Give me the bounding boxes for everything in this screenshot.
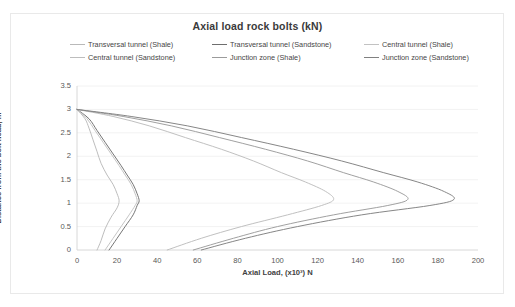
y-axis-tick-label: 3 (45, 104, 71, 113)
y-axis-title: Distance from the bolt head, m (0, 0, 6, 86)
legend-item-label: Junction zone (Sandstone) (382, 51, 469, 64)
x-axis-tick-label: 120 (303, 256, 333, 265)
legend-item[interactable]: Central tunnel (Sandstone) (70, 51, 212, 64)
chart-legend: Transversal tunnel (Shale)Transversal tu… (70, 38, 462, 64)
legend-row: Transversal tunnel (Shale)Transversal tu… (70, 38, 462, 51)
legend-item[interactable]: Junction zone (Sandstone) (364, 51, 462, 64)
y-axis-tick-label: 0.5 (45, 222, 71, 231)
x-axis-tick-label: 60 (182, 256, 212, 265)
x-axis-tick-label: 100 (263, 256, 293, 265)
y-axis-tick-label: 1 (45, 198, 71, 207)
legend-item[interactable]: Transversal tunnel (Sandstone) (212, 38, 364, 51)
legend-item-label: Transversal tunnel (Shale) (88, 38, 173, 51)
plot-area: 00.511.522.533.5020406080100120140160180… (77, 86, 478, 250)
y-axis-title-text: Distance from the bolt head, m (0, 86, 3, 250)
legend-item-label: Central tunnel (Shale) (382, 38, 453, 51)
x-axis-title-text: Axial Load, (x10³) N (242, 268, 312, 277)
legend-row: Central tunnel (Sandstone)Junction zone … (70, 51, 462, 64)
y-axis-tick-label: 0 (45, 245, 71, 254)
y-axis-tick-label: 1.5 (45, 175, 71, 184)
legend-line-icon (364, 57, 379, 58)
y-axis-tick-label: 2 (45, 151, 71, 160)
x-axis-tick-label: 160 (383, 256, 413, 265)
legend-item-label: Transversal tunnel (Sandstone) (230, 38, 332, 51)
legend-item[interactable]: Transversal tunnel (Shale) (70, 38, 212, 51)
legend-line-icon (364, 44, 379, 45)
y-axis-tick-label: 2.5 (45, 128, 71, 137)
legend-line-icon (212, 57, 227, 58)
x-axis-tick-label: 0 (62, 256, 92, 265)
legend-item[interactable]: Central tunnel (Shale) (364, 38, 462, 51)
legend-line-icon (70, 44, 85, 45)
legend-item[interactable]: Junction zone (Shale) (212, 51, 364, 64)
chart-title: Axial load rock bolts (kN) (0, 20, 515, 32)
plot-svg (77, 86, 478, 250)
legend-item-label: Central tunnel (Sandstone) (88, 51, 175, 64)
legend-line-icon (70, 57, 85, 58)
legend-item-label: Junction zone (Shale) (230, 51, 301, 64)
x-axis-tick-label: 140 (343, 256, 373, 265)
x-axis-tick-label: 80 (222, 256, 252, 265)
legend-line-icon (212, 44, 227, 45)
x-axis-tick-label: 200 (463, 256, 493, 265)
x-axis-tick-label: 20 (102, 256, 132, 265)
chart-container: Axial load rock bolts (kN) Transversal t… (0, 0, 515, 307)
x-axis-title: Axial Load, (x10³) N (77, 268, 478, 277)
y-axis-tick-label: 3.5 (45, 81, 71, 90)
x-axis-tick-label: 180 (423, 256, 453, 265)
x-axis-tick-label: 40 (142, 256, 172, 265)
